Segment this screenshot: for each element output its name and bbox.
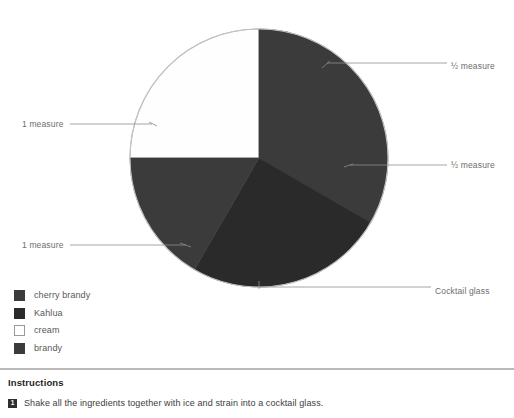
legend-swatch-cherry-brandy (14, 290, 25, 301)
instruction-step-text: Shake all the ingredients together with … (24, 399, 323, 409)
callout-cherry-brandy-measure: ½ measure (451, 62, 495, 71)
cocktail-recipe-figure: ½ measure ½ measure Cocktail glass 1 mea… (0, 0, 514, 366)
callout-kahlua-measure: ½ measure (451, 161, 495, 170)
legend-item-cream: cream (14, 322, 204, 340)
section-divider (0, 368, 514, 370)
legend-swatch-kahlua (14, 308, 25, 319)
chart-legend: cherry brandy Kahlua cream brandy (14, 287, 204, 357)
legend-label-cream: cream (34, 326, 60, 335)
legend-item-cherry-brandy: cherry brandy (14, 287, 204, 305)
instructions-heading: Instructions (8, 378, 514, 388)
callout-cream-measure: 1 measure (22, 120, 64, 129)
legend-label-brandy: brandy (34, 344, 62, 353)
legend-label-kahlua: Kahlua (34, 309, 63, 318)
callout-brandy-measure: 1 measure (22, 241, 64, 250)
legend-swatch-cream (14, 325, 25, 336)
legend-item-brandy: brandy (14, 340, 204, 358)
legend-item-kahlua: Kahlua (14, 305, 204, 323)
step-number-badge: 1 (8, 399, 17, 408)
pie-slice-cream (130, 29, 259, 158)
instructions-section: Instructions 1 Shake all the ingredients… (0, 368, 514, 408)
legend-label-cherry-brandy: cherry brandy (34, 291, 90, 300)
callout-cocktail-glass: Cocktail glass (435, 287, 490, 296)
instruction-step: 1 Shake all the ingredients together wit… (8, 399, 514, 409)
legend-swatch-brandy (14, 343, 25, 354)
